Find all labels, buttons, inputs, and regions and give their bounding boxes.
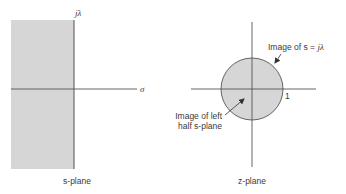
circle-annotation-math: jλ bbox=[316, 42, 324, 52]
circle-annotation: Image of s = jλ bbox=[268, 42, 324, 52]
s-plane: jλ σ s-plane bbox=[11, 8, 145, 186]
interior-annotation-line1: Image of left bbox=[175, 111, 222, 121]
z-plane-caption: z-plane bbox=[238, 176, 266, 186]
s-plane-caption: s-plane bbox=[63, 176, 91, 186]
mapping-diagram: jλ σ s-plane 1 Image of s = jλ Image of … bbox=[0, 0, 346, 194]
s-plane-imag-axis-label: jλ bbox=[74, 8, 82, 18]
unit-circle-label: 1 bbox=[285, 91, 290, 101]
circle-annotation-arrow bbox=[275, 54, 281, 63]
circle-annotation-text: Image of s = bbox=[268, 42, 317, 52]
z-plane: 1 Image of s = jλ Image of left half s-p… bbox=[175, 22, 324, 186]
s-plane-real-axis-label: σ bbox=[140, 84, 145, 94]
left-half-plane-shading bbox=[11, 20, 74, 169]
interior-annotation-line2: half s-plane bbox=[178, 121, 222, 131]
